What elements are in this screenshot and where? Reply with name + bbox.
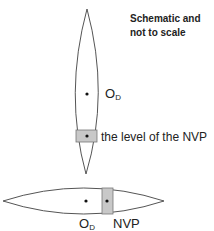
od-main: O (79, 216, 89, 231)
vertical-od-dot (85, 92, 88, 95)
vertical-nvp-dot (85, 134, 88, 137)
vertical-lens-outline (75, 9, 98, 174)
horizontal-nvp-label: NVP (113, 217, 140, 231)
vertical-od-label: OD (105, 87, 121, 105)
note-line-1: Schematic and (130, 12, 201, 26)
vertical-nvp-label: the level of the NVP (101, 130, 207, 144)
horizontal-lens-outline (3, 188, 164, 214)
od-sub: D (89, 223, 95, 231)
horizontal-od-dot (84, 199, 87, 202)
horizontal-nvp-dot (105, 199, 108, 202)
od-main: O (105, 86, 115, 101)
od-sub: D (115, 93, 121, 102)
note-line-2: not to scale (130, 26, 201, 40)
horizontal-od-label: OD (79, 217, 95, 231)
schematic-note: Schematic and not to scale (130, 12, 201, 40)
